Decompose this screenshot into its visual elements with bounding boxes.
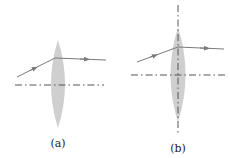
panel-b: (b) (131, 5, 225, 155)
panel-a-label: (a) (50, 137, 65, 150)
panel-b-label: (b) (170, 142, 186, 155)
lens-a (51, 40, 65, 128)
ray-a-arrow-in (30, 68, 35, 71)
panel-a: (a) (15, 40, 106, 150)
ray-b-arrow-in (150, 55, 155, 57)
lens-diagram: (a) (b) (0, 0, 230, 158)
